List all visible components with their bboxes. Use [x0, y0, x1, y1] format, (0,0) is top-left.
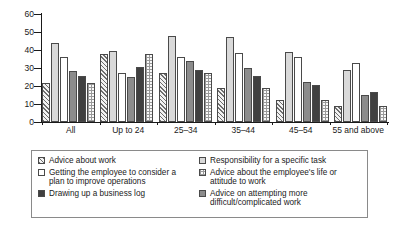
- bar: [312, 85, 320, 122]
- y-axis-tick-label: 60: [4, 10, 34, 19]
- legend-item[interactable]: Advice on attempting more difficult/comp…: [199, 189, 361, 208]
- legend-item[interactable]: Advice about work: [38, 156, 193, 166]
- legend-swatch-icon: [38, 169, 45, 176]
- bar: [145, 54, 153, 122]
- y-axis-tick: [34, 68, 41, 69]
- bar: [217, 88, 225, 122]
- bar: [244, 68, 252, 122]
- bar-group: [334, 14, 387, 122]
- bar: [78, 76, 86, 122]
- bar: [276, 100, 284, 122]
- y-axis-tick: [34, 14, 41, 15]
- bar: [352, 63, 360, 122]
- bar: [186, 61, 194, 122]
- category-label: All: [42, 125, 100, 135]
- y-axis-tick-label: 10: [4, 100, 34, 109]
- legend-column-left: Advice about workGetting the employee to…: [38, 156, 193, 213]
- legend-item[interactable]: Responsibility for a specific task: [199, 156, 361, 166]
- bar: [334, 106, 342, 122]
- legend-label: Advice on attempting more difficult/comp…: [210, 189, 361, 208]
- legend-column-right: Responsibility for a specific taskAdvice…: [199, 156, 361, 213]
- bar: [136, 67, 144, 122]
- y-axis-tick: [34, 86, 41, 87]
- legend-label: Getting the employee to consider a plan …: [49, 168, 193, 187]
- bar: [118, 73, 126, 122]
- bar: [109, 51, 117, 122]
- bar: [177, 57, 185, 122]
- y-axis-labels: 0102030405060: [0, 0, 34, 130]
- y-axis-tick: [34, 104, 41, 105]
- legend-item[interactable]: Getting the employee to consider a plan …: [38, 168, 193, 187]
- bar: [69, 71, 77, 122]
- legend-swatch-icon: [199, 169, 206, 176]
- y-axis-tick-label: 0: [4, 118, 34, 127]
- category-label: 45–54: [272, 125, 330, 135]
- y-axis-tick: [34, 32, 41, 33]
- bar: [226, 37, 234, 123]
- bar: [253, 76, 261, 122]
- bar: [294, 57, 302, 122]
- legend-item[interactable]: Drawing up a business log: [38, 189, 193, 199]
- bar: [285, 52, 293, 122]
- y-axis-tick-label: 30: [4, 64, 34, 73]
- bar-group: [100, 14, 153, 122]
- bar: [195, 70, 203, 122]
- bar: [127, 77, 135, 122]
- legend-swatch-icon: [199, 190, 206, 197]
- category-label: 35–44: [215, 125, 273, 135]
- bar: [204, 73, 212, 123]
- bar: [87, 83, 95, 122]
- category-label: 55 and above: [330, 125, 388, 135]
- chart-legend: Advice about workGetting the employee to…: [31, 150, 368, 218]
- y-axis-tick: [34, 122, 41, 123]
- bar-groups: [42, 14, 387, 122]
- bar: [379, 106, 387, 122]
- bar-group: [159, 14, 212, 122]
- y-axis-tick-label: 20: [4, 82, 34, 91]
- legend-swatch-icon: [199, 157, 206, 164]
- bar: [42, 83, 50, 122]
- legend-label: Advice about work: [49, 156, 116, 166]
- bar: [51, 43, 59, 122]
- bar: [370, 92, 378, 122]
- bar-chart: 0102030405060 AllUp to 2425–3435–4445–54…: [0, 0, 398, 140]
- category-label: Up to 24: [100, 125, 158, 135]
- bar: [168, 36, 176, 122]
- legend-swatch-icon: [38, 157, 45, 164]
- bar: [159, 73, 167, 123]
- y-axis-tick: [34, 50, 41, 51]
- legend-label: Drawing up a business log: [49, 189, 145, 199]
- bar: [343, 70, 351, 122]
- bar: [361, 95, 369, 122]
- x-axis-tick: [387, 122, 388, 125]
- bar: [60, 57, 68, 122]
- bar: [321, 100, 329, 122]
- bar: [100, 54, 108, 122]
- legend-swatch-icon: [38, 190, 45, 197]
- bar-group: [217, 14, 270, 122]
- category-labels: AllUp to 2425–3435–4445–5455 and above: [42, 125, 387, 135]
- bar: [262, 88, 270, 122]
- y-axis-tick-label: 50: [4, 28, 34, 37]
- bar-group: [276, 14, 329, 122]
- bar: [303, 82, 311, 122]
- legend-label: Advice about the employee's life or atti…: [210, 168, 361, 187]
- bar: [235, 53, 243, 122]
- legend-item[interactable]: Advice about the employee's life or atti…: [199, 168, 361, 187]
- legend-label: Responsibility for a specific task: [210, 156, 326, 166]
- category-label: 25–34: [157, 125, 215, 135]
- bar-group: [42, 14, 95, 122]
- y-axis-tick-label: 40: [4, 46, 34, 55]
